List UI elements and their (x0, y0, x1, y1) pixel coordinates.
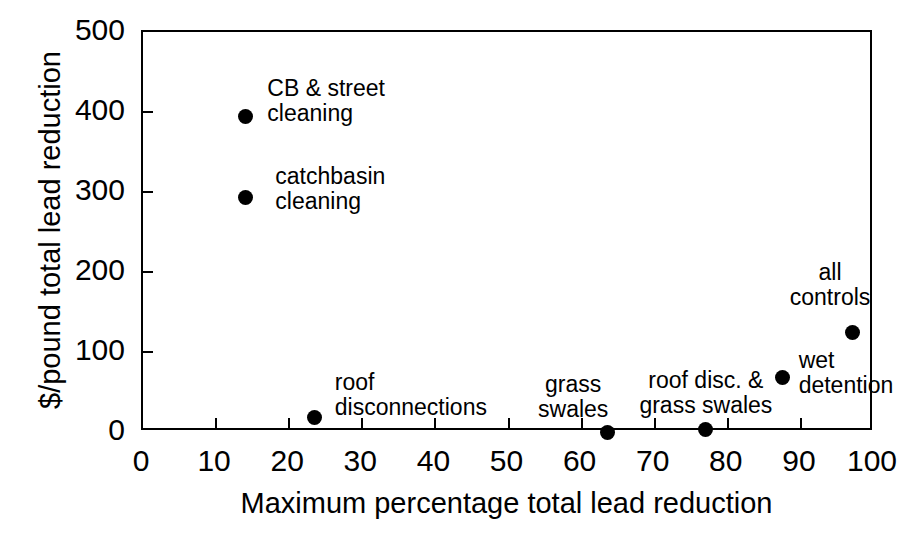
y-tick-label: 400 (5, 95, 125, 125)
x-tick-mark (727, 418, 729, 429)
x-tick-mark (288, 418, 290, 429)
y-tick-label: 200 (5, 255, 125, 285)
y-tick-mark (142, 111, 153, 113)
data-point (307, 410, 322, 425)
data-point (845, 325, 860, 340)
y-tick-label: 0 (5, 415, 125, 445)
y-tick-label: 300 (5, 175, 125, 205)
y-tick-label: 100 (5, 335, 125, 365)
y-tick-label: 500 (5, 15, 125, 45)
point-annotation: wet detention (799, 348, 894, 398)
point-annotation: all controls (680, 260, 921, 310)
point-annotation: CB & street cleaning (267, 76, 385, 126)
data-point (238, 190, 253, 205)
x-tick-mark (215, 418, 217, 429)
y-tick-mark (142, 351, 153, 353)
x-tick-mark (361, 418, 363, 429)
plot-area: CB & street cleaningcatchbasin cleaningr… (141, 30, 872, 430)
data-point (600, 425, 615, 440)
y-tick-mark (142, 271, 153, 273)
point-annotation: catchbasin cleaning (275, 164, 385, 214)
y-tick-mark (142, 191, 153, 193)
x-tick-mark (800, 418, 802, 429)
x-tick-label: 100 (827, 446, 917, 476)
data-point (238, 109, 253, 124)
scatter-chart-figure: $/pound total lead reduction Maximum per… (0, 0, 921, 540)
